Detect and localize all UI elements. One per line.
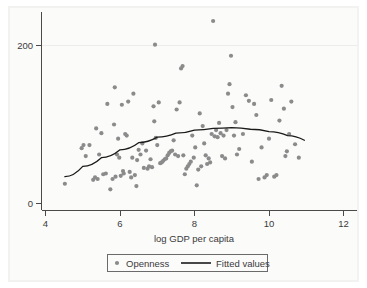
data-point [113, 175, 117, 179]
data-point [175, 107, 179, 111]
data-point [190, 133, 194, 137]
data-point [297, 156, 301, 160]
data-point [113, 85, 117, 89]
x-tick-label-10: 10 [264, 218, 275, 229]
data-point [122, 171, 126, 175]
chart-figure: 200 0 4 6 8 10 12 log GDP per capita Ope… [0, 0, 367, 288]
y-tick-label-200: 200 [17, 40, 33, 51]
data-point [199, 164, 203, 168]
data-point [172, 138, 176, 142]
data-point [116, 137, 120, 141]
data-point [221, 133, 225, 137]
data-point [144, 148, 148, 152]
data-point [138, 152, 142, 156]
data-point [151, 104, 155, 108]
data-point [142, 166, 146, 170]
data-point [244, 93, 248, 97]
data-point [207, 156, 211, 160]
data-point [134, 184, 138, 188]
data-point [117, 156, 121, 160]
chart-legend: Openness Fitted values [108, 255, 271, 272]
data-point [130, 156, 134, 160]
data-point [112, 122, 116, 126]
data-point [265, 173, 269, 177]
data-point [215, 135, 219, 139]
data-point [157, 100, 161, 104]
data-point [256, 177, 260, 181]
x-axis-title: log GDP per capita [154, 233, 235, 244]
legend-label-fitted-values: Fitted values [216, 258, 270, 269]
data-point [226, 92, 230, 96]
data-point [204, 153, 208, 157]
x-tick-label-4: 4 [43, 218, 48, 229]
data-point [277, 118, 281, 122]
data-point [63, 182, 67, 186]
data-point [285, 149, 289, 153]
data-point [230, 105, 234, 109]
data-point [180, 64, 184, 68]
data-point [196, 167, 200, 171]
data-point [131, 92, 135, 96]
data-point [283, 154, 287, 158]
data-point [153, 43, 157, 47]
data-point [259, 145, 263, 149]
data-point [202, 141, 206, 145]
data-point [183, 172, 187, 176]
data-point [152, 119, 156, 123]
data-point [176, 154, 180, 158]
data-point [87, 143, 91, 147]
data-point [133, 173, 137, 177]
data-point [233, 120, 237, 124]
x-tick-label-12: 12 [338, 218, 349, 229]
scatter-plot: 200 0 4 6 8 10 12 log GDP per capita Ope… [0, 0, 367, 288]
data-point [280, 84, 284, 88]
data-point [195, 183, 199, 187]
data-point [227, 82, 231, 86]
data-point [135, 158, 139, 162]
data-point [125, 133, 129, 137]
data-point [192, 156, 196, 160]
y-tick-label-0: 0 [28, 198, 33, 209]
data-point [267, 137, 271, 141]
data-point [104, 171, 108, 175]
data-point [120, 103, 124, 107]
data-point [254, 113, 258, 117]
data-point [126, 99, 130, 103]
data-point [193, 145, 197, 149]
data-point [137, 148, 141, 152]
x-tick-label-6: 6 [117, 218, 122, 229]
data-point [217, 121, 221, 125]
data-point [293, 142, 297, 146]
data-point [148, 157, 152, 161]
data-point [208, 160, 212, 164]
data-point [269, 98, 273, 102]
data-point [282, 107, 286, 111]
data-point [129, 175, 133, 179]
legend-label-openness: Openness [126, 258, 170, 269]
data-point [97, 152, 101, 156]
data-point [105, 102, 109, 106]
data-point [247, 99, 251, 103]
y-axis: 200 0 [17, 12, 41, 210]
data-point [150, 165, 154, 169]
data-point [84, 154, 88, 158]
data-point [223, 156, 227, 160]
data-point [178, 100, 182, 104]
data-point [155, 143, 159, 147]
data-point [189, 160, 193, 164]
x-axis: 4 6 8 10 12 log GDP per capita [42, 211, 358, 245]
legend-marker-openness [115, 261, 119, 265]
data-point [99, 131, 103, 135]
scatter-points-layer [63, 19, 301, 191]
data-point [201, 124, 205, 128]
data-point [211, 19, 215, 23]
data-point [250, 160, 254, 164]
data-point [181, 153, 185, 157]
data-point [274, 173, 278, 177]
data-point [229, 54, 233, 58]
data-point [198, 111, 202, 115]
x-tick-label-8: 8 [192, 218, 197, 229]
data-point [232, 133, 236, 137]
data-point [241, 132, 245, 136]
data-point [170, 148, 174, 152]
